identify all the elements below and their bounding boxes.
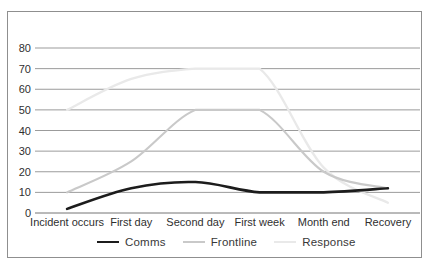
y-tick-label: 40 xyxy=(19,125,31,137)
x-category-label: Month end xyxy=(298,216,350,228)
x-category-label: First week xyxy=(235,216,286,228)
legend-item-frontline: Frontline xyxy=(183,236,258,248)
legend-label-response: Response xyxy=(302,236,355,248)
series-line-response xyxy=(67,69,388,203)
chart-legend: Comms Frontline Response xyxy=(97,236,356,248)
y-tick-label: 60 xyxy=(19,83,31,95)
y-tick-label: 70 xyxy=(19,63,31,75)
frontline-line-swatch xyxy=(183,241,205,243)
crisis-workload-line-chart-figure: 80706050403020100Incident occursFirst da… xyxy=(0,0,431,269)
x-category-label: Incident occurs xyxy=(30,216,104,228)
legend-label-frontline: Frontline xyxy=(211,236,258,248)
legend-item-comms: Comms xyxy=(97,236,166,248)
y-tick-label: 20 xyxy=(19,166,31,178)
comms-line-swatch xyxy=(97,241,119,244)
y-tick-label: 30 xyxy=(19,145,31,157)
x-category-label: Second day xyxy=(166,216,225,228)
line-chart-plot-area: 80706050403020100Incident occursFirst da… xyxy=(0,0,431,269)
y-tick-label: 50 xyxy=(19,104,31,116)
legend-label-comms: Comms xyxy=(125,236,166,248)
x-category-label: Recovery xyxy=(365,216,412,228)
series-line-comms xyxy=(67,182,388,209)
legend-item-response: Response xyxy=(274,236,355,248)
y-tick-label: 10 xyxy=(19,186,31,198)
x-category-label: First day xyxy=(110,216,153,228)
y-tick-label: 80 xyxy=(19,42,31,54)
response-line-swatch xyxy=(274,241,296,243)
